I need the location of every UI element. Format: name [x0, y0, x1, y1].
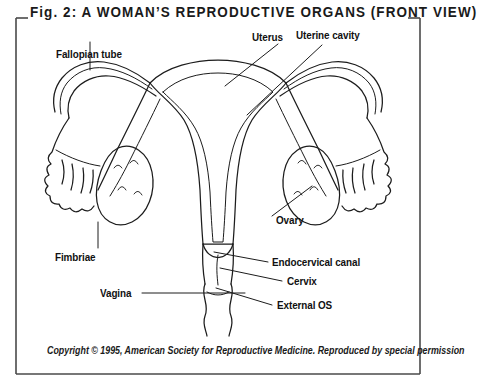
- leader-uterine-cavity: [247, 45, 322, 115]
- leader-external-os: [216, 288, 272, 305]
- label-uterine-cavity: Uterine cavity: [296, 29, 360, 41]
- label-fimbriae: Fimbriae: [55, 251, 96, 263]
- leader-endocervical-canal: [214, 252, 268, 262]
- leader-uterus: [225, 44, 278, 86]
- leader-ovary: [272, 186, 312, 216]
- label-external-os: External OS: [277, 299, 332, 311]
- label-ovary: Ovary: [276, 214, 304, 226]
- label-uterus: Uterus: [252, 31, 283, 43]
- label-fallopian-tube: Fallopian tube: [56, 48, 122, 60]
- label-vagina: Vagina: [100, 287, 131, 299]
- label-cervix: Cervix: [287, 275, 317, 287]
- label-endocervical-canal: Endocervical canal: [272, 256, 360, 268]
- copyright-notice: Copyright © 1995, American Society for R…: [47, 345, 464, 356]
- leader-cervix: [220, 268, 282, 281]
